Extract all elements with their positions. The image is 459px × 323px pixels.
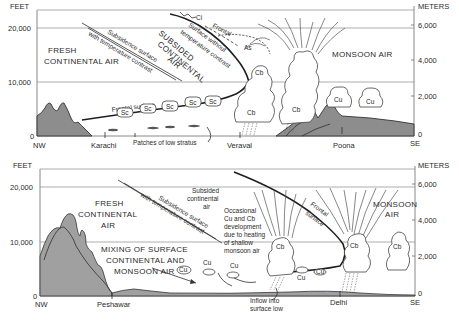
top-cloud-cb-2: Cb [247, 109, 256, 116]
bottom-cumulonimbus-1: Cb [267, 238, 295, 290]
bottom-cloud-cb-3: Cb [393, 243, 402, 250]
bottom-inflow-arrow-2 [234, 278, 256, 283]
top-cloud-cb-1: Cb [255, 69, 264, 76]
occasional-line-1: Occasional [224, 207, 257, 214]
bottom-mixing-arrowhead [190, 279, 196, 284]
bottom-label-subsided: Subsided [192, 187, 219, 194]
bottom-feet-unit: FEET [13, 161, 33, 170]
bottom-occasional-note: Occasional Cu and Cb development due to … [224, 207, 266, 254]
bottom-label-subsided-continental: continental [187, 195, 219, 202]
bottom-label-fresh: FRESH [95, 199, 124, 208]
bottom-label-subsided-air: air [203, 203, 211, 210]
top-cloud-sc-2: Sc [144, 105, 152, 112]
top-label-continental-air: CONTINENTAL AIR [44, 57, 119, 66]
bottom-meters-tick-4000: 4,000 [418, 216, 437, 225]
bottom-feet-tick-20000: 20,000 [10, 183, 33, 192]
bottom-cloud-cb-1: Cb [276, 243, 285, 250]
bottom-cloud-cu-4: Cu [297, 274, 306, 281]
bottom-label-mixing-1: MIXING OF SURFACE [101, 245, 188, 254]
top-cloud-sc-3: Sc [166, 103, 174, 110]
top-cloud-sc-4: Sc [189, 99, 197, 106]
bottom-label-monsoon-air: AIR [385, 210, 399, 219]
top-cloud-sc-1: Sc [121, 109, 129, 116]
top-panel: FEET 20,000 10,000 0 NW METERS 6,000 4,0… [8, 2, 449, 150]
top-patches-arrow [207, 127, 211, 142]
bottom-label-mixing-2: CONTINENTAL AND [106, 256, 185, 265]
bottom-meters-tick-2000: 2,000 [418, 252, 437, 261]
top-cloud-cu-1: Cu [334, 96, 343, 103]
top-feet-tick-0: 0 [30, 132, 34, 141]
bottom-label-inflow-2: surface low [250, 305, 283, 312]
bottom-feet-tick-10000: 10,000 [10, 238, 33, 247]
bottom-cloud-cu-5: Cu [316, 268, 325, 275]
bottom-place-delhi: Delhi [330, 298, 347, 307]
top-place-karachi: Karachi [91, 141, 117, 150]
top-low-stratus-patches [108, 125, 200, 131]
bottom-meters-tick-0: 0 [418, 289, 422, 298]
top-meters-unit: METERS [418, 2, 449, 11]
top-meters-tick-2000: 2,000 [418, 92, 437, 101]
top-label-patches-low-stratus: Patches of low stratus [133, 139, 197, 146]
top-feet-tick-10000: 10,000 [8, 78, 31, 87]
bottom-nw-label: NW [35, 300, 48, 309]
bottom-cumulonimbus-2: Cb [342, 234, 371, 292]
bottom-meters-ticks [412, 184, 415, 256]
bottom-label-air: AIR [101, 221, 115, 230]
bottom-meters-tick-6000: 6,000 [418, 180, 437, 189]
bottom-cumulonimbus-3: Cb [386, 232, 409, 270]
top-se-label: SE [410, 139, 420, 148]
top-meters-tick-4000: 4,000 [418, 56, 437, 65]
top-place-poona: Poona [333, 141, 356, 150]
occasional-line-3: development [224, 223, 261, 231]
top-meters-tick-6000: 6,000 [418, 21, 437, 30]
bottom-cumulus-clouds: Cu Cu Cu Cu Cu [177, 259, 326, 281]
bottom-terrain-plain [112, 289, 415, 296]
occasional-line-2: Cu and Cb [224, 215, 255, 222]
bottom-meters-unit: METERS [418, 161, 449, 170]
monsoon-cross-section-diagram: FEET 20,000 10,000 0 NW METERS 6,000 4,0… [0, 0, 459, 323]
top-cloud-sc-5: Sc [209, 98, 217, 105]
bottom-se-label: SE [410, 298, 420, 307]
top-cloud-cb-3: Cb [292, 106, 301, 113]
top-feet-unit: FEET [10, 2, 30, 11]
bottom-panel: FEET 20,000 10,000 0 NW METERS 6,000 4,0… [10, 161, 449, 312]
top-meters-tick-0: 0 [418, 130, 422, 139]
top-label-fresh: FRESH [48, 46, 77, 55]
top-cloud-cu-2: Cu [366, 98, 375, 105]
bottom-cloud-cb-2: Cb [350, 242, 359, 249]
bottom-cloud-cu-2: Cu [203, 259, 212, 266]
bottom-cloud-cu-3: Cu [230, 262, 239, 269]
top-cloud-ci: Ci [196, 14, 202, 21]
top-meters-ticks [411, 25, 414, 96]
occasional-line-5: of shallow [224, 239, 253, 246]
top-cumulonimbus-veraval: Cb Cb [234, 38, 274, 135]
bottom-cloud-cu-1: Cu [179, 266, 188, 273]
top-cumulus-clouds: Cu Cu [326, 87, 382, 107]
bottom-label-continental: CONTINENTAL [78, 210, 137, 219]
bottom-label-mixing-3: MONSOON AIR [114, 267, 175, 276]
top-place-veraval: Veraval [227, 141, 252, 150]
bottom-label-inflow-1: Inflow into [250, 297, 280, 304]
top-nw-label: NW [33, 141, 46, 150]
top-label-monsoon-air: MONSOON AIR [332, 50, 393, 59]
occasional-line-4: due to heating [224, 231, 266, 239]
bottom-place-peshawar: Peshawar [97, 300, 131, 309]
occasional-line-6: monsoon air [224, 247, 261, 254]
top-feet-tick-20000: 20,000 [8, 24, 31, 33]
